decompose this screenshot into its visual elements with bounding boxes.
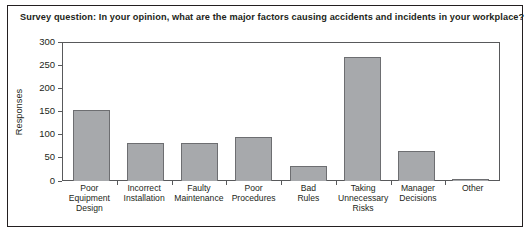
y-axis-tick-label: 50 — [44, 151, 55, 162]
chart-title: Survey question: In your opinion, what a… — [20, 12, 510, 22]
y-axis-tick-label: 300 — [39, 36, 55, 47]
y-axis: 050100150200250300 — [0, 42, 62, 181]
x-axis-tick-mark — [336, 181, 337, 185]
x-axis-tick-mark — [281, 181, 282, 185]
x-axis-label: Other — [447, 183, 499, 193]
x-axis-labels: Poor Equipment DesignIncorrect Installat… — [62, 183, 500, 214]
bar-series — [62, 42, 500, 181]
x-axis-label: Faulty Maintenance — [173, 183, 225, 203]
bar — [290, 166, 327, 181]
x-axis-label: Poor Procedures — [228, 183, 280, 203]
x-axis-tick-mark — [172, 181, 173, 185]
x-axis-tick-mark — [445, 181, 446, 185]
caption-strip — [0, 233, 532, 242]
plot-area — [62, 42, 500, 181]
y-axis-tick-label: 250 — [39, 59, 55, 70]
x-axis-label: Poor Equipment Design — [63, 183, 115, 214]
bar — [73, 110, 110, 181]
x-axis-tick-mark — [117, 181, 118, 185]
y-axis-tick-label: 150 — [39, 105, 55, 116]
bar — [452, 179, 489, 181]
bar — [127, 143, 164, 181]
bar — [235, 137, 272, 181]
x-axis-label: Incorrect Installation — [118, 183, 170, 203]
x-axis-tick-mark — [391, 181, 392, 185]
y-axis-tick-label: 0 — [50, 175, 55, 186]
x-axis-label: Bad Rules — [282, 183, 334, 203]
figure: Survey question: In your opinion, what a… — [0, 0, 532, 242]
x-axis-label: Manager Decisions — [392, 183, 444, 203]
bar — [398, 151, 435, 181]
bar — [181, 143, 218, 181]
y-axis-tick-label: 200 — [39, 82, 55, 93]
y-axis-tick-label: 100 — [39, 128, 55, 139]
x-axis-label: Taking Unnecessary Risks — [337, 183, 389, 214]
bar — [344, 57, 381, 181]
x-axis-tick-mark — [226, 181, 227, 185]
